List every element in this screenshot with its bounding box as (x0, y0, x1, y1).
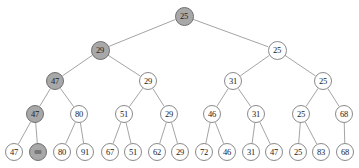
tree-node[interactable]: 80 (53, 143, 71, 161)
tree-node[interactable]: 72 (195, 143, 213, 161)
tree-node-layer: 2529254729312547805129463125684780916751… (0, 0, 359, 168)
tree-node[interactable]: 47 (265, 143, 283, 161)
tree-node[interactable]: 80 (70, 105, 88, 123)
tree-node[interactable]: 25 (268, 41, 287, 60)
tree-node[interactable]: 46 (218, 143, 236, 161)
tree-node[interactable]: 29 (171, 143, 189, 161)
tree-node[interactable]: 51 (115, 105, 133, 123)
tree-node[interactable]: 25 (289, 143, 307, 161)
tree-node[interactable]: 29 (139, 72, 157, 90)
tree-node[interactable]: 62 (148, 143, 166, 161)
tree-node[interactable]: 51 (124, 143, 142, 161)
tree-node[interactable]: 29 (91, 41, 110, 60)
tree-node[interactable] (29, 143, 47, 161)
tree-node[interactable]: 31 (247, 105, 265, 123)
tree-node[interactable]: 29 (160, 105, 178, 123)
tree-node[interactable]: 31 (242, 143, 260, 161)
tree-node[interactable]: 31 (224, 72, 242, 90)
tree-node[interactable]: 68 (335, 105, 353, 123)
tree-node[interactable]: 47 (46, 72, 64, 90)
tree-node[interactable]: 68 (336, 143, 354, 161)
tree-node[interactable]: 25 (292, 105, 310, 123)
tree-node[interactable]: 25 (175, 7, 194, 26)
tree-node[interactable]: 47 (26, 105, 44, 123)
tree-node[interactable]: 91 (76, 143, 94, 161)
binary-tree-diagram: 2529254729312547805129463125684780916751… (0, 0, 359, 168)
tree-node[interactable]: 67 (101, 143, 119, 161)
tree-node[interactable]: 83 (312, 143, 330, 161)
tree-node[interactable]: 47 (5, 143, 23, 161)
tree-node[interactable]: 46 (203, 105, 221, 123)
tree-node[interactable]: 25 (314, 72, 332, 90)
